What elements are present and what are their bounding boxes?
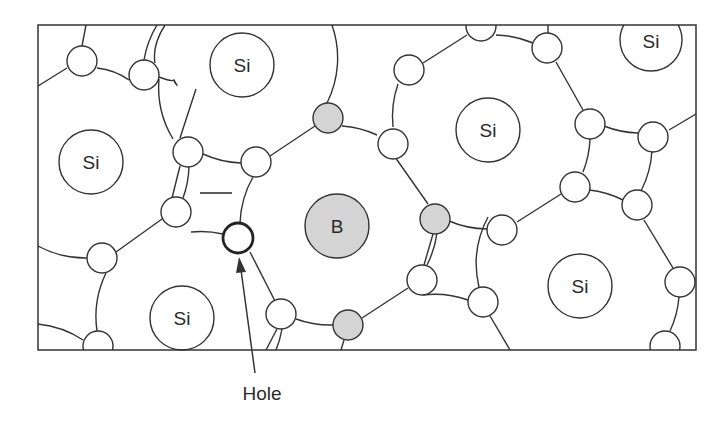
acceptor-electron — [333, 310, 363, 340]
electron — [378, 129, 408, 159]
electron — [67, 46, 97, 76]
acceptor-electron — [420, 204, 450, 234]
si-atom-left: Si — [59, 130, 123, 194]
acceptor-electron — [313, 103, 343, 133]
electron — [560, 172, 590, 202]
si-atom-top: Si — [210, 33, 274, 97]
atom-label: Si — [480, 120, 497, 141]
electron — [532, 33, 562, 63]
electron — [407, 265, 437, 295]
electron — [241, 147, 271, 177]
electron — [468, 287, 498, 317]
electron — [665, 267, 695, 297]
electron — [638, 122, 668, 152]
hole-marker — [223, 223, 253, 253]
hole-label: Hole — [242, 383, 281, 404]
si-atom-bottom-left: Si — [150, 286, 214, 350]
si-atom-right-mid: Si — [456, 98, 520, 162]
atom-label: B — [331, 216, 344, 237]
electron — [575, 109, 605, 139]
electron — [266, 299, 296, 329]
atom-label: Si — [83, 152, 100, 173]
electron — [161, 197, 191, 227]
electron — [622, 190, 652, 220]
electron — [129, 60, 159, 90]
boron-atom: B — [305, 194, 369, 258]
electron — [173, 137, 203, 167]
atom-label: Si — [174, 308, 191, 329]
boron-doped-silicon-diagram: Si Si Si Si Si Si B — [0, 0, 727, 422]
atom-label: Si — [234, 55, 251, 76]
si-atom-bottom-right: Si — [548, 254, 612, 318]
atom-label: Si — [572, 276, 589, 297]
atom-label: Si — [643, 31, 660, 52]
electron — [487, 215, 517, 245]
electron — [394, 55, 424, 85]
electron — [87, 243, 117, 273]
